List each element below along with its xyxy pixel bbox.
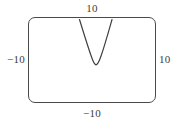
parabola-plot <box>29 18 157 104</box>
parabola-curve <box>80 20 113 65</box>
window-ymax-label: 10 <box>0 3 184 14</box>
window-ymin-label: −10 <box>0 108 184 119</box>
calculator-viewport[interactable] <box>28 17 156 103</box>
graph-screenshot: 10 −10 10 −10 <box>0 0 184 127</box>
window-xmin-label: −10 <box>4 54 28 65</box>
window-xmax-label: 10 <box>159 54 181 65</box>
